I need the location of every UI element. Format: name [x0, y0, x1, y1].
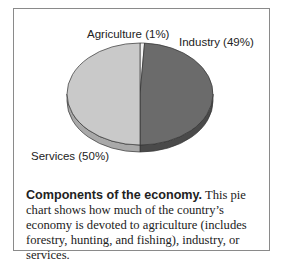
pie-slice-services: [67, 43, 140, 145]
pie-top: [67, 43, 213, 145]
caption-title: Components of the economy.: [26, 188, 202, 202]
label-industry: Industry (49%): [179, 36, 254, 48]
label-services: Services (50%): [31, 150, 109, 162]
pie-slice-industry: [140, 43, 213, 145]
label-agriculture: Agriculture (1%): [87, 28, 170, 40]
figure-caption: Components of the economy. This pie char…: [26, 188, 262, 261]
